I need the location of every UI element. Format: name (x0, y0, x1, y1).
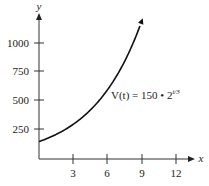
curve-arrow-icon (138, 18, 143, 25)
equation-exponent: t/3 (172, 88, 180, 96)
y-tick-label: 250 (13, 123, 30, 135)
x-tick-label: 3 (70, 167, 76, 179)
y-axis-label: y (36, 0, 42, 12)
y-tick-label: 500 (13, 94, 30, 106)
x-axis-label: x (198, 152, 204, 164)
y-tick-label: 750 (13, 65, 30, 77)
equation-main: V(t) = 150 • 2 (111, 89, 172, 102)
equation-label: V(t) = 150 • 2t/3 (111, 88, 180, 102)
y-tick-label: 1000 (7, 37, 30, 49)
exponential-chart: 1000 750 500 250 3 6 9 12 y x V(t) = 150… (0, 0, 209, 186)
x-tick-label: 12 (171, 167, 182, 179)
x-axis-arrow-icon (188, 156, 195, 162)
exponential-curve (39, 26, 140, 142)
y-axis-arrow-icon (36, 13, 42, 20)
x-tick-label: 9 (139, 167, 145, 179)
x-tick-label: 6 (104, 167, 110, 179)
